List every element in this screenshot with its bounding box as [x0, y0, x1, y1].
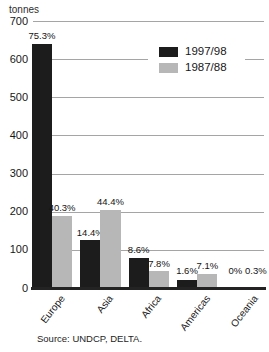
source-note: Source: UNDCP, DELTA. [37, 333, 142, 344]
xlabel-americas: Americas [178, 293, 212, 333]
bar-europe-1987-88 [52, 216, 72, 289]
bar-asia-1987-88 [100, 210, 120, 288]
bar-value-label-oceania-1997-98: 0% [229, 266, 243, 276]
ytick-500: 500 [0, 92, 28, 103]
bar-value-label-africa-1987-88: 7.8% [148, 259, 170, 269]
legend-item-1997-98: 1997/98 [159, 46, 245, 57]
bar-africa-1987-88 [149, 271, 169, 288]
bar-value-label-europe-1997-98: 75.3% [28, 31, 55, 41]
ytick-700: 700 [0, 16, 28, 27]
bar-value-label-oceania-1987-88: 0.3% [245, 266, 267, 276]
xlabel-oceania: Oceania [229, 293, 261, 329]
ytick-100: 100 [0, 244, 28, 255]
legend-label-1997-98: 1997/98 [185, 46, 227, 57]
ytick-300: 300 [0, 168, 28, 179]
bar-value-label-africa-1997-98: 8.6% [128, 245, 150, 255]
bar-value-label-asia-1987-88: 44.4% [97, 197, 124, 207]
bar-value-label-americas-1987-88: 7.1% [196, 261, 218, 271]
bar-europe-1997-98 [32, 44, 52, 288]
gridline-400 [33, 135, 264, 136]
ytick-0: 0 [0, 283, 28, 294]
bar-chart: tonnes 0100200300400500600700 75.3%40.3%… [0, 0, 269, 352]
legend-label-1987-88: 1987/88 [185, 62, 227, 73]
legend-swatch-1987-88 [159, 63, 178, 73]
bar-africa-1997-98 [129, 258, 149, 289]
legend-swatch-1997-98 [159, 47, 178, 57]
legend: 1997/98 1987/88 [148, 41, 245, 81]
ytick-400: 400 [0, 130, 28, 141]
legend-item-1987-88: 1987/88 [159, 62, 245, 73]
x-axis-line [31, 287, 266, 290]
bar-value-label-europe-1987-88: 40.3% [49, 203, 76, 213]
bar-asia-1997-98 [80, 240, 100, 288]
gridline-700 [33, 21, 264, 22]
ytick-200: 200 [0, 206, 28, 217]
bar-value-label-americas-1997-98: 1.6% [176, 266, 198, 276]
gridline-500 [33, 97, 264, 98]
xlabel-africa: Africa [139, 293, 163, 320]
xlabel-europe: Europe [38, 293, 67, 325]
ytick-600: 600 [0, 54, 28, 65]
y-axis-unit-label: tonnes [9, 4, 39, 15]
xlabel-asia: Asia [94, 293, 115, 315]
gridline-300 [33, 174, 264, 175]
